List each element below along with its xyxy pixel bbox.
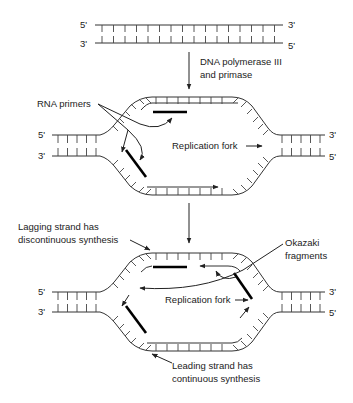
end-label: 3' bbox=[38, 306, 45, 317]
end-label: 5' bbox=[329, 151, 336, 162]
step-arrow-1: DNA polymerase III and primase bbox=[189, 52, 282, 89]
enzyme-label: and primase bbox=[200, 69, 252, 80]
end-label: 3' bbox=[38, 150, 45, 161]
rna-primers-label: RNA primers bbox=[37, 98, 91, 109]
replication-fork-label: Replication fork bbox=[172, 140, 238, 151]
parent-dna-duplex: 5' 3' 3' 5' bbox=[80, 19, 295, 51]
lagging-strand-label: discontinuous synthesis bbox=[18, 234, 119, 245]
rna-primer bbox=[126, 150, 146, 177]
end-label: 3' bbox=[329, 129, 336, 140]
end-label: 5' bbox=[38, 286, 45, 297]
base-pair-ticks bbox=[102, 25, 275, 43]
end-label: 5' bbox=[329, 307, 336, 318]
end-label: 5' bbox=[38, 129, 45, 140]
leading-strand-label: Leading strand has bbox=[172, 360, 253, 371]
end-label: 3' bbox=[288, 19, 295, 30]
end-label: 3' bbox=[80, 38, 87, 49]
rna-primer bbox=[126, 306, 146, 333]
replication-bubble-1: 5' 3' 3' 5' RNA primers Replication fork bbox=[37, 97, 336, 195]
replication-fork-label: Replication fork bbox=[165, 294, 231, 305]
okazaki-fragments-label: fragments bbox=[285, 250, 327, 261]
end-label: 5' bbox=[80, 19, 87, 30]
okazaki-fragment bbox=[234, 273, 252, 299]
leading-strand-label: continuous synthesis bbox=[172, 373, 260, 384]
okazaki-fragments-label: Okazaki bbox=[285, 237, 319, 248]
end-label: 5' bbox=[288, 40, 295, 51]
end-label: 3' bbox=[329, 286, 336, 297]
lagging-strand-label: Lagging strand has bbox=[18, 221, 99, 232]
enzyme-label: DNA polymerase III bbox=[200, 56, 282, 67]
dna-replication-diagram: 5' 3' 3' 5' DNA polymerase III and prima… bbox=[0, 0, 353, 403]
replication-bubble-2: 5' 3' 3' 5' Lagging strand has discontin… bbox=[18, 221, 336, 384]
